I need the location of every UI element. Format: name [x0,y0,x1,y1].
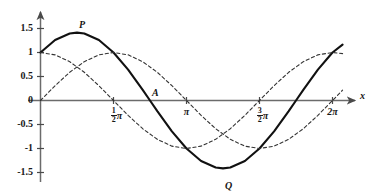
chart-plot-svg [0,0,377,194]
point-A-label: A [152,88,159,98]
x-axis-label: x [360,91,365,101]
y-tick-label: 0 [0,95,33,105]
x-tick-label: 12π [100,107,134,124]
y-tick-label: -1 [0,143,33,153]
x-tick-label: 2π [316,107,350,117]
y-tick-label: 0.5 [0,71,33,81]
y-tick-label: -0.5 [0,119,33,129]
axis-group [28,12,355,182]
point-P-label: P [79,20,85,30]
y-tick-label: -1.5 [0,167,33,177]
point-Q-label: Q [225,181,232,191]
y-tick-label: 1.5 [0,23,33,33]
chart-canvas: 1.510.50-0.5-1-1.512ππ32π2πPAQx [0,0,377,194]
x-tick-label: π [170,107,204,117]
x-tick-label: 32π [246,107,280,124]
y-tick-label: 1 [0,47,33,57]
